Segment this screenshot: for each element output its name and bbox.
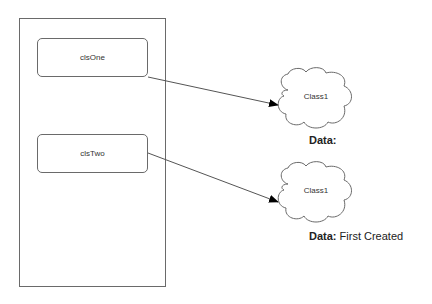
cloud2-data-label: Data: First Created: [309, 230, 403, 242]
diagram-canvas: [0, 0, 432, 304]
cloud1-data-key: Data:: [309, 134, 337, 146]
cloud2-data-value: First Created: [340, 230, 404, 242]
cloud2-label: Class1: [278, 186, 354, 195]
cloud2-data-key: Data:: [309, 230, 337, 242]
cloud1-label: Class1: [278, 92, 354, 101]
cloud1-data-label: Data:: [309, 134, 337, 146]
edge-clstwo-to-cloud2: [148, 153, 278, 202]
edge-clsone-to-cloud1: [148, 77, 278, 105]
